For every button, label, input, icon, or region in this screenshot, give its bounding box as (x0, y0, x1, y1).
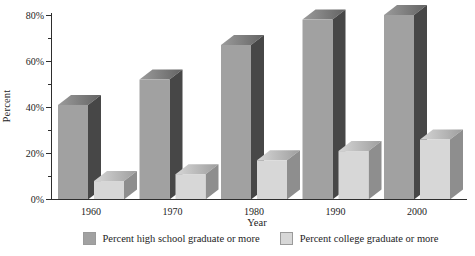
bar-high-school-1990-front (303, 20, 333, 200)
legend-item-high-school: Percent high school graduate or more (83, 232, 260, 245)
chart-canvas: 196019701980199020000%20%40%60%80% Perce… (0, 0, 475, 256)
bar-college-graduate-1990-side (369, 141, 382, 199)
bar-high-school-2000-front (384, 15, 414, 200)
bar-college-graduate-1980-front (257, 160, 287, 199)
legend-swatch-college-icon (280, 232, 293, 245)
y-tick-label-0: 0% (31, 194, 44, 205)
bar-high-school-1960-front (58, 105, 88, 200)
x-tick-label-1970: 1970 (163, 206, 183, 217)
legend: Percent high school graduate or more Per… (0, 232, 475, 245)
x-tick-label-2000: 2000 (407, 206, 427, 217)
bar-college-graduate-2000-side (450, 130, 463, 200)
bar-college-graduate-1990-front (339, 151, 369, 199)
y-tick-label-20: 20% (26, 148, 44, 159)
y-axis-title: Percent (1, 67, 15, 145)
bar-college-graduate-1970-front (176, 174, 206, 199)
legend-label-high-school: Percent high school graduate or more (103, 233, 260, 244)
legend-swatch-high-school-icon (83, 232, 96, 245)
x-tick-label-1960: 1960 (81, 206, 101, 217)
x-tick-label-1980: 1980 (244, 206, 264, 217)
x-axis-title: Year (51, 217, 463, 228)
bar-college-graduate-2000-front (420, 140, 450, 200)
legend-label-college: Percent college graduate or more (300, 233, 439, 244)
y-tick-label-80: 80% (26, 10, 44, 21)
y-tick-label-40: 40% (26, 102, 44, 113)
bar-high-school-1980-front (221, 45, 251, 200)
x-tick-label-1990: 1990 (326, 206, 346, 217)
bar-college-graduate-1960-front (94, 181, 124, 199)
bar-high-school-1970-front (140, 80, 170, 200)
y-tick-label-60: 60% (26, 56, 44, 67)
legend-item-college: Percent college graduate or more (280, 232, 439, 245)
